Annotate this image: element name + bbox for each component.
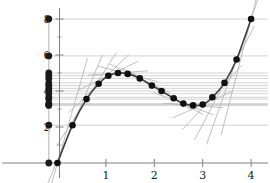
data-point: [180, 100, 187, 107]
data-point: [158, 88, 165, 95]
rug-marker: [45, 122, 52, 129]
plot-canvas: 12342468: [0, 0, 270, 183]
data-point: [83, 96, 90, 103]
rug-horizontal-lines: [49, 19, 268, 125]
data-point: [199, 101, 206, 108]
rug-marker: [45, 102, 52, 109]
data-point: [95, 81, 102, 88]
x-axis-tick-label: 1: [102, 169, 109, 182]
data-point: [54, 160, 61, 167]
data-point: [136, 75, 143, 82]
rug-marker: [45, 160, 52, 167]
data-point: [209, 94, 216, 101]
rug-marker: [45, 16, 52, 23]
tangent-line: [221, 0, 270, 135]
tangent-lines-group: [27, 0, 270, 183]
data-point: [233, 56, 240, 63]
x-axis-tick-label: 2: [151, 169, 158, 182]
data-point: [190, 102, 197, 109]
data-point: [105, 72, 112, 79]
data-point: [221, 80, 228, 87]
data-point: [124, 71, 131, 78]
x-axis-tick-label: 3: [199, 169, 206, 182]
data-point: [248, 16, 255, 23]
x-axis-tick-label: 4: [248, 169, 255, 182]
data-point: [115, 70, 122, 77]
data-point: [69, 122, 76, 129]
scatter-plot-with-tangent-lines: 12342468: [0, 0, 270, 183]
tangent-line: [207, 0, 267, 144]
data-point: [170, 95, 177, 102]
data-point: [149, 82, 156, 89]
rug-marker: [45, 53, 52, 60]
